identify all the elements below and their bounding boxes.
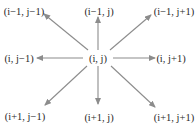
neighborhood-diagram: (i, j) (i−1, j−1) (i−1, j) (i−1, j+1) (i… (0, 0, 196, 130)
neighbor-label-top: (i−1, j) (84, 6, 113, 17)
arrow-bottom-left (45, 66, 87, 105)
neighbor-label-right: (i, j+1) (156, 53, 185, 64)
neighbor-label-left: (i, j−1) (4, 53, 33, 64)
neighbor-label-bottom-right: (i+1, j+1) (154, 112, 194, 123)
neighbor-label-top-right: (i−1, j+1) (154, 6, 194, 17)
center-node-label: (i, j) (89, 53, 107, 64)
arrow-top-left (44, 14, 88, 50)
neighbor-label-bottom-left: (i+1, j−1) (5, 111, 45, 122)
neighbor-label-bottom: (i+1, j) (84, 112, 113, 123)
arrow-bottom-right (111, 66, 155, 107)
neighbor-label-top-left: (i−1, j−1) (4, 6, 44, 17)
arrow-top-right (110, 15, 151, 50)
